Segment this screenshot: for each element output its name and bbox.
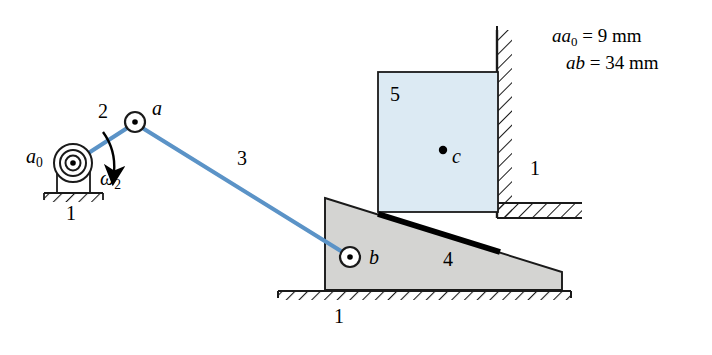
dimension-ab: ab = 34 mm (566, 53, 659, 72)
grounded-revolute-joint-icon (54, 144, 92, 182)
label-omega-subscript: 2 (114, 177, 121, 192)
ground-bottom (278, 291, 571, 300)
label-omega-2: ω2 (100, 168, 121, 191)
dimension-aa0-equals: = (577, 25, 597, 46)
crank-ground-hatch (44, 193, 103, 202)
label-omega-symbol: ω (100, 167, 114, 189)
label-frame-left: 1 (66, 203, 76, 223)
dimension-ab-value: 34 mm (605, 52, 658, 73)
label-link-2: 2 (98, 101, 108, 121)
label-ground-pivot-a0: a0 (26, 146, 43, 169)
label-frame-wall: 1 (530, 158, 540, 178)
link-3-coupler (136, 124, 349, 256)
revolute-joint-b-icon (340, 247, 360, 267)
label-frame-bottom: 1 (334, 306, 344, 326)
label-link-5: 5 (390, 84, 400, 104)
label-link-3: 3 (237, 148, 247, 168)
wall-hatch-vertical (497, 30, 512, 217)
label-point-c: c (452, 146, 461, 166)
label-a0-subscript: 0 (36, 155, 43, 170)
wall-hatch-ledge (497, 203, 582, 218)
label-a0-symbol: a (26, 145, 36, 167)
point-c-marker (439, 146, 447, 154)
dimension-aa0-value: 9 mm (598, 25, 642, 46)
dimension-ab-symbol: ab (566, 52, 585, 73)
dimension-aa0-symbol: aa (552, 25, 571, 46)
revolute-joint-a-icon (125, 112, 145, 132)
label-joint-a: a (152, 98, 162, 118)
ground-hatch-bottom (278, 291, 571, 300)
dimension-aa0: aa0 = 9 mm (552, 26, 641, 49)
label-joint-b: b (369, 247, 379, 267)
label-link-4: 4 (443, 249, 453, 269)
dimension-ab-equals: = (585, 52, 605, 73)
mechanism-diagram: aa0 = 9 mm ab = 34 mm a0 2 a ω2 1 3 b 4 … (0, 0, 712, 355)
